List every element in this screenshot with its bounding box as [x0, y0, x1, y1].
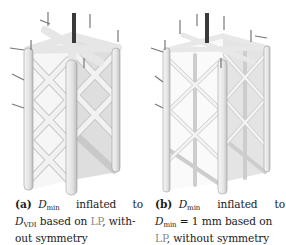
subfigure-label: (b)	[155, 198, 172, 210]
load-bar-icon	[72, 13, 76, 43]
caption-a: (a) Dmin inflated to DVDI based on LP, w…	[15, 198, 143, 245]
subfigure-label: (a)	[15, 198, 32, 210]
lattice-structure-icon	[143, 0, 286, 196]
lp-acronym-link[interactable]: LP	[90, 215, 102, 227]
lattice-render-a	[0, 0, 143, 196]
lattice-structure-icon	[0, 0, 143, 196]
lattice-render-b	[143, 0, 286, 196]
lp-acronym-link[interactable]: LP	[155, 232, 167, 244]
caption-b: (b) Dmin inflated to Dmin = 1 mm based o…	[155, 198, 285, 245]
load-bar-icon	[205, 13, 209, 43]
